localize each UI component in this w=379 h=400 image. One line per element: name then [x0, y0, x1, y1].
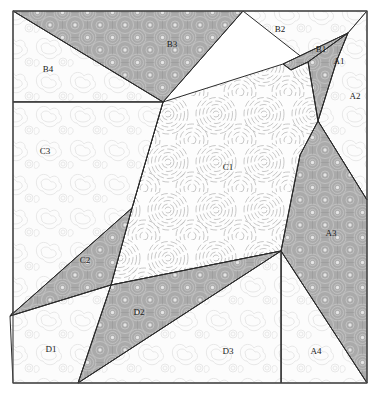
dissection-figure: B3B4B2B1A1A2A3A4C1C2C3D2D1D3 [0, 0, 379, 400]
tiling-svg: B3B4B2B1A1A2A3A4C1C2C3D2D1D3 [0, 0, 379, 400]
region-label-d2: D2 [134, 307, 145, 317]
region-label-c3: C3 [40, 146, 51, 156]
region-label-b2: B2 [275, 24, 286, 34]
regions-layer [10, 11, 367, 383]
region-label-a2: A2 [350, 91, 361, 101]
region-label-d1: D1 [46, 344, 57, 354]
region-label-b4: B4 [43, 64, 54, 74]
region-label-a4: A4 [311, 346, 322, 356]
region-label-b3: B3 [167, 39, 178, 49]
region-label-b1: B1 [316, 44, 327, 54]
region-label-d3: D3 [223, 346, 234, 356]
region-label-c2: C2 [80, 255, 91, 265]
region-label-a1: A1 [334, 56, 345, 66]
region-label-c1: C1 [223, 162, 234, 172]
region-label-a3: A3 [326, 228, 337, 238]
